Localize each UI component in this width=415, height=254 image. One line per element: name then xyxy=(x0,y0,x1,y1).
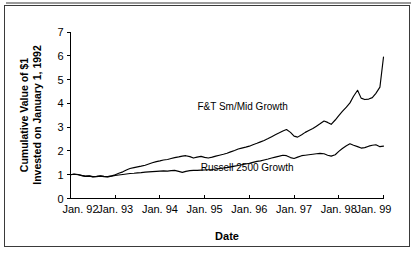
y-tick-label-1: 1 xyxy=(57,169,63,181)
series-label-russell-2500-growth: Russell 2500 Growth xyxy=(201,162,294,173)
y-tick-label-2: 2 xyxy=(57,145,63,157)
y-tick-label-4: 4 xyxy=(57,97,63,109)
chart-figure: 01234567 Jan. 92Jan. 93Jan. 94Jan. 95Jan… xyxy=(0,0,415,254)
x-tick-label-5: Jan. 97 xyxy=(276,203,312,215)
y-tick-labels-group: 01234567 xyxy=(57,26,63,205)
x-axis-title: Date xyxy=(215,230,239,242)
y-axis-title-line1: Cumulative Value of $1 xyxy=(18,58,30,173)
x-axis-ticks-group xyxy=(71,195,384,199)
y-axis-ticks-group xyxy=(67,32,71,199)
series-annotations-group: F&T Sm/Mid GrowthRussell 2500 Growth xyxy=(197,101,293,173)
y-tick-label-5: 5 xyxy=(57,74,63,86)
series-label-ft-sm-mid-growth: F&T Sm/Mid Growth xyxy=(197,101,287,112)
y-axis-title-line2: Invested on January 1, 1992 xyxy=(31,45,43,185)
x-tick-label-4: Jan. 96 xyxy=(231,203,267,215)
x-tick-label-3: Jan. 95 xyxy=(187,203,223,215)
y-tick-label-7: 7 xyxy=(57,26,63,38)
series-line-ft-sm-mid-growth xyxy=(71,57,384,177)
x-tick-label-1: Jan. 93 xyxy=(97,203,133,215)
x-tick-labels-group: Jan. 92Jan. 93Jan. 94Jan. 95Jan. 96Jan. … xyxy=(63,203,392,215)
x-tick-label-2: Jan. 94 xyxy=(142,203,178,215)
y-tick-label-3: 3 xyxy=(57,121,63,133)
x-tick-label-0: Jan. 92 xyxy=(63,203,99,215)
x-tick-label-6: Jan. 98 xyxy=(321,203,357,215)
y-tick-label-6: 6 xyxy=(57,50,63,62)
line-chart-plot: 01234567 Jan. 92Jan. 93Jan. 94Jan. 95Jan… xyxy=(0,0,415,254)
data-series-group xyxy=(71,57,384,177)
x-tick-label-7: Jan. 99 xyxy=(355,203,391,215)
